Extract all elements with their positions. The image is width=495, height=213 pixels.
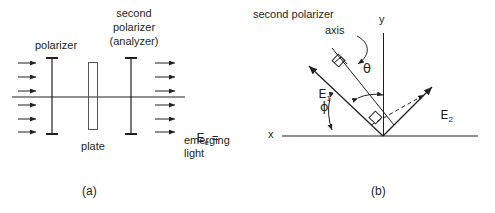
analyzer-element <box>125 58 137 134</box>
right-angle-marker-upper <box>332 54 347 70</box>
figure-graphics <box>0 0 495 213</box>
label-emerging-line3: light <box>184 147 204 159</box>
label-polarizer: polarizer <box>20 39 92 51</box>
e2-vector <box>383 87 432 136</box>
label-emerging-line2: emerging <box>184 134 230 146</box>
right-angle-marker-lower <box>369 111 382 124</box>
label-theta: θ <box>363 63 371 75</box>
plate-rectangle <box>89 63 98 130</box>
label-second-polarizer-line1: second <box>98 7 170 19</box>
caption-b: (b) <box>371 185 386 198</box>
label-e2: E2 <box>428 97 453 135</box>
physics-figure: polarizer second polarizer (analyzer) pl… <box>0 0 495 213</box>
label-second-polarizer-axis-line2: axis <box>325 24 345 36</box>
panel-a-graphics <box>12 58 185 134</box>
label-second-polarizer-line3: (analyzer) <box>98 35 170 47</box>
label-second-polarizer-axis-line1: second polarizer <box>253 8 334 20</box>
label-y-axis: y <box>379 13 385 25</box>
polarizer-element <box>46 58 58 134</box>
label-plate: plate <box>65 140 121 152</box>
label-phi: ϕ <box>320 101 329 113</box>
label-second-polarizer-line2: polarizer <box>98 21 170 33</box>
label-x-axis: x <box>268 128 274 140</box>
axis-callout-arrow <box>357 36 367 64</box>
caption-a: (a) <box>82 185 97 198</box>
e2-subscript: 2 <box>448 115 452 124</box>
